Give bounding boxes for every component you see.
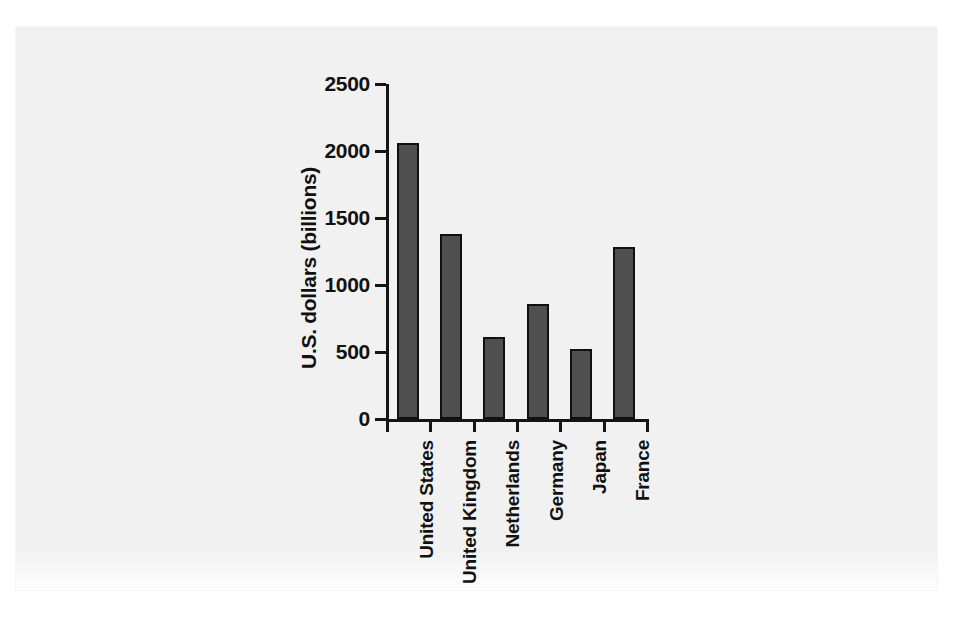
y-tick-label: 1500 [0,206,370,230]
y-tick-mark [375,217,386,220]
bar [613,247,635,419]
y-tick-mark [375,418,386,421]
x-tick-mark [386,419,389,432]
x-tick-mark [559,419,562,432]
x-tick-mark [646,419,649,432]
x-tick-label: United States [416,440,438,559]
y-axis-title: U.S. dollars (billions) [297,167,321,369]
x-tick-label: Germany [546,440,568,521]
x-tick-mark [603,419,606,432]
bar-chart: U.S. dollars (billions) 0500100015002000… [0,0,970,630]
y-tick-mark [375,150,386,153]
y-tick-mark [375,351,386,354]
x-tick-label: France [632,440,654,501]
x-tick-label: Japan [589,440,611,494]
bar [527,304,549,419]
x-tick-label: Netherlands [502,440,524,548]
bar [440,234,462,419]
x-tick-mark [473,419,476,432]
page-root: U.S. dollars (billions) 0500100015002000… [0,0,970,630]
y-tick-mark [375,284,386,287]
bar [483,337,505,419]
y-tick-label: 1000 [0,273,370,297]
x-tick-mark [516,419,519,432]
bar [570,349,592,419]
y-tick-label: 2500 [0,72,370,96]
y-tick-label: 0 [0,407,370,431]
y-tick-label: 2000 [0,139,370,163]
y-axis-top-cap [375,83,386,86]
x-tick-label: United Kingdom [459,440,481,584]
bar [397,143,419,419]
y-tick-label: 500 [0,340,370,364]
x-tick-mark [429,419,432,432]
plot-area [386,84,646,419]
